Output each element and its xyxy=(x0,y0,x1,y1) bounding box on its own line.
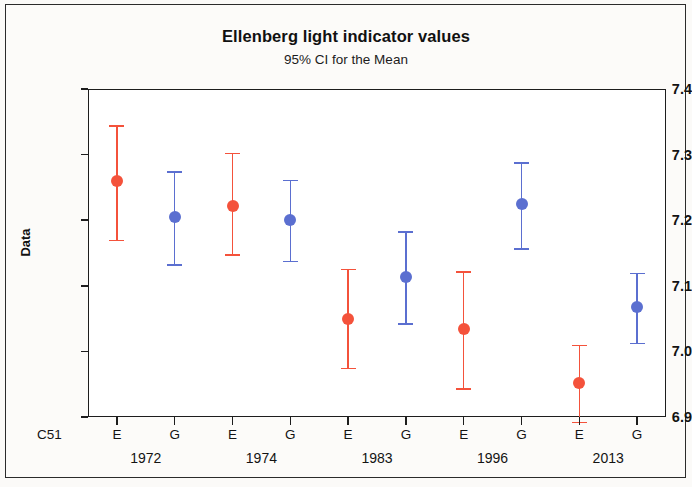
error-bar-cap-upper xyxy=(225,153,240,155)
x-group-label: 1972 xyxy=(101,450,191,466)
mean-marker xyxy=(400,271,412,283)
x-tick-mark xyxy=(463,417,465,425)
error-bar-cap-upper xyxy=(283,180,298,182)
error-bar-cap-upper xyxy=(398,231,413,233)
error-bar-cap-upper xyxy=(167,171,182,173)
error-bar-cap-lower xyxy=(514,248,529,250)
x-tick-label-g: G xyxy=(502,427,542,442)
x-tick-mark xyxy=(521,417,523,425)
mean-marker xyxy=(573,377,585,389)
error-bar-cap-lower xyxy=(398,323,413,325)
error-bar-cap-lower xyxy=(456,388,471,390)
error-bar-cap-lower xyxy=(630,343,645,345)
x-tick-mark xyxy=(405,417,407,425)
x-tick-mark xyxy=(116,417,118,425)
mean-marker xyxy=(284,214,296,226)
chart-subtitle: 95% CI for the Mean xyxy=(0,52,692,67)
error-bar-cap-lower xyxy=(341,368,356,370)
error-bar-cap-lower xyxy=(167,264,182,266)
mean-marker xyxy=(227,200,239,212)
mean-marker xyxy=(169,211,181,223)
x-tick-label-g: G xyxy=(386,427,426,442)
y-tick-mark xyxy=(81,154,88,156)
x-group-label: 1974 xyxy=(216,450,306,466)
error-bar-cap-lower xyxy=(283,261,298,263)
x-tick-mark xyxy=(232,417,234,425)
y-axis-title: Data xyxy=(18,213,33,273)
x-group-label: 2013 xyxy=(563,450,653,466)
x-tick-mark xyxy=(290,417,292,425)
x-tick-label-e: E xyxy=(328,427,368,442)
x-tick-label-e: E xyxy=(213,427,253,442)
x-tick-label-e: E xyxy=(559,427,599,442)
y-tick-mark xyxy=(81,219,88,221)
x-tick-mark xyxy=(174,417,176,425)
x-tick-label-g: G xyxy=(617,427,657,442)
error-bar-cap-upper xyxy=(630,273,645,275)
x-group-label: 1983 xyxy=(332,450,422,466)
x-tick-mark xyxy=(347,417,349,425)
y-tick-mark xyxy=(81,88,88,90)
mean-marker xyxy=(458,323,470,335)
x-tick-label-e: E xyxy=(97,427,137,442)
plot-area xyxy=(88,89,666,417)
mean-marker xyxy=(111,175,123,187)
x-axis-row-label: C51 xyxy=(37,427,62,442)
x-tick-label-g: G xyxy=(270,427,310,442)
x-tick-mark xyxy=(636,417,638,425)
x-group-label: 1996 xyxy=(448,450,538,466)
error-bar-cap-upper xyxy=(572,345,587,347)
x-tick-label-e: E xyxy=(444,427,484,442)
y-tick-mark xyxy=(81,351,88,353)
chart-title: Ellenberg light indicator values xyxy=(0,27,692,46)
error-bar-cap-upper xyxy=(109,125,124,127)
error-bar-cap-upper xyxy=(514,162,529,164)
mean-marker xyxy=(631,301,643,313)
error-bar-cap-lower xyxy=(109,240,124,242)
x-tick-label-g: G xyxy=(155,427,195,442)
mean-marker xyxy=(516,198,528,210)
y-tick-mark xyxy=(81,416,88,418)
mean-marker xyxy=(342,313,354,325)
error-bar-cap-upper xyxy=(341,269,356,271)
x-tick-mark xyxy=(579,417,581,425)
error-bar-cap-lower xyxy=(225,254,240,256)
error-bar-cap-upper xyxy=(456,271,471,273)
y-tick-mark xyxy=(81,285,88,287)
